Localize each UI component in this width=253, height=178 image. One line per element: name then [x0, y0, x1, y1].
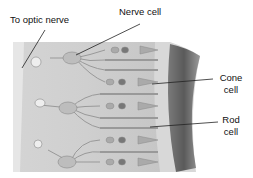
nerve-cell-body	[58, 156, 76, 168]
cone-cell-label-line2: cell	[216, 84, 246, 96]
optic-nerve-label: To optic nerve	[10, 14, 69, 26]
cone-cell-label: Cone cell	[216, 72, 246, 96]
nerve-cell-label: Nerve cell	[119, 6, 161, 18]
rod-cell-label-line2: cell	[218, 126, 244, 138]
nerve-cell-body	[59, 102, 77, 114]
rod-cell-label: Rod cell	[218, 114, 244, 138]
choroid-layer	[168, 44, 200, 172]
rod-cell-label-line1: Rod	[218, 114, 244, 126]
ganglion-cell	[31, 57, 41, 67]
cone-cell-label-line1: Cone	[216, 72, 246, 84]
ganglion-cell	[35, 99, 45, 107]
ganglion-cell	[34, 140, 42, 148]
